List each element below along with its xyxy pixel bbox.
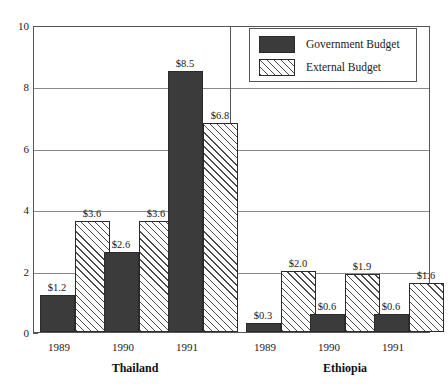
bar-thailand-1990-government bbox=[104, 252, 139, 332]
bar-value-thailand-1989-government: $1.2 bbox=[29, 282, 85, 293]
legend: Government Budget External Budget bbox=[249, 28, 417, 82]
bar-value-ethiopia-1991-government: $0.6 bbox=[363, 301, 419, 312]
bar-ethiopia-1991-government bbox=[374, 314, 409, 332]
bar-value-thailand-1991-external: $6.8 bbox=[192, 110, 248, 121]
bar-thailand-1989-government bbox=[40, 295, 75, 332]
legend-item-government-budget: Government Budget bbox=[259, 35, 400, 53]
x-tick-label-ethiopia-1989: 1989 bbox=[235, 341, 295, 353]
bar-value-ethiopia-1990-external: $1.9 bbox=[334, 261, 390, 272]
group-label-thailand: Thailand bbox=[80, 362, 190, 375]
bar-value-ethiopia-1989-external: $2.0 bbox=[270, 258, 326, 269]
y-tick-label-4: 4 bbox=[5, 205, 29, 216]
group-label-ethiopia: Ethiopia bbox=[290, 362, 400, 375]
y-tick-label-2: 2 bbox=[5, 267, 29, 278]
bar-value-thailand-1990-government: $2.6 bbox=[93, 239, 149, 250]
bar-value-ethiopia-1990-government: $0.6 bbox=[299, 301, 355, 312]
legend-label-external-budget: External Budget bbox=[306, 61, 381, 73]
bar-ethiopia-1989-government bbox=[246, 323, 281, 332]
y-tick-label-6: 6 bbox=[5, 144, 29, 155]
x-tick-label-thailand-1990: 1990 bbox=[93, 341, 153, 353]
y-tick-label-8: 8 bbox=[5, 82, 29, 93]
x-tick-label-ethiopia-1990: 1990 bbox=[299, 341, 359, 353]
y-tick-mark-0 bbox=[33, 333, 38, 334]
legend-swatch-hatched-icon bbox=[259, 59, 295, 76]
x-tick-label-thailand-1989: 1989 bbox=[29, 341, 89, 353]
legend-swatch-solid-dark-icon bbox=[259, 36, 295, 53]
legend-label-government-budget: Government Budget bbox=[306, 38, 400, 50]
bar-ethiopia-1990-government bbox=[310, 314, 345, 332]
y-tick-label-10: 10 bbox=[5, 21, 29, 32]
legend-item-external-budget: External Budget bbox=[259, 58, 381, 76]
x-tick-label-thailand-1991: 1991 bbox=[157, 341, 217, 353]
gridline-8 bbox=[34, 88, 429, 89]
x-tick-label-ethiopia-1991: 1991 bbox=[363, 341, 423, 353]
bar-value-ethiopia-1991-external: $1.6 bbox=[398, 270, 448, 281]
bar-value-thailand-1991-government: $8.5 bbox=[157, 58, 213, 69]
y-axis: 10 8 6 4 2 0 bbox=[0, 0, 29, 384]
bar-thailand-1991-external bbox=[203, 123, 238, 332]
bar-value-ethiopia-1989-government: $0.3 bbox=[235, 310, 291, 321]
bar-value-thailand-1989-external: $3.6 bbox=[64, 208, 120, 219]
y-tick-label-0: 0 bbox=[5, 328, 29, 339]
